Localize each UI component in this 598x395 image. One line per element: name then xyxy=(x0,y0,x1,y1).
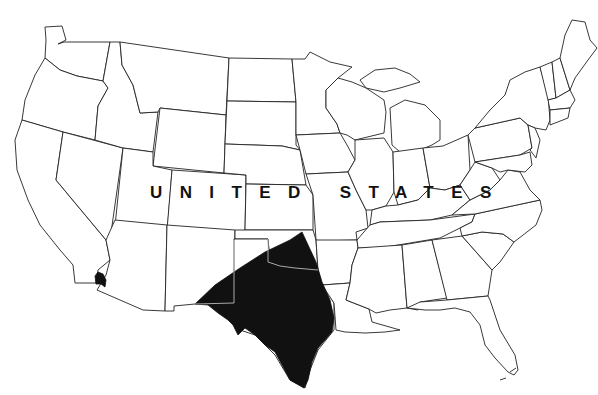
state-south-dakota xyxy=(225,101,300,150)
state-north-dakota xyxy=(227,58,296,102)
country-label-word-2: STATES xyxy=(340,183,509,202)
country-label: UNITEDSTATES xyxy=(150,183,509,203)
state-wyoming xyxy=(153,108,226,173)
state-connecticut-rhode-island xyxy=(550,108,570,125)
state-mississippi xyxy=(346,245,407,313)
us-range-map: UNITEDSTATES xyxy=(0,0,598,395)
state-iowa xyxy=(296,133,355,174)
country-label-word-1: UNITED xyxy=(150,183,318,202)
state-florida xyxy=(407,296,518,375)
